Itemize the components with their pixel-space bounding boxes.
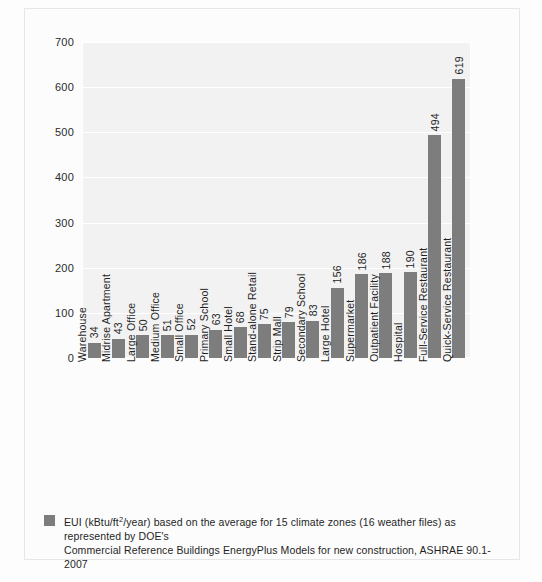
category-slot: Primary School bbox=[204, 362, 228, 494]
category-slot: Full-Service Restaurant bbox=[422, 362, 446, 494]
y-axis-tick-label: 0 bbox=[68, 352, 74, 364]
legend-label: EUI (kBtu/ft2/year) based on the average… bbox=[64, 512, 494, 571]
x-axis-category-label: Large Hotel bbox=[319, 306, 331, 362]
chart-figure: 34435051526368757983156186188190494619 7… bbox=[0, 0, 542, 582]
bar bbox=[331, 288, 344, 358]
category-slot: Small Office bbox=[179, 362, 203, 494]
category-slot: Strip Mall bbox=[277, 362, 301, 494]
x-axis-category-label: Secondary School bbox=[295, 274, 307, 362]
bar bbox=[209, 330, 222, 358]
category-slot: Supermarket bbox=[349, 362, 373, 494]
bar bbox=[136, 335, 149, 358]
y-axis-tick-labels: 7006005004003002001000 bbox=[22, 42, 74, 358]
y-axis-tick-label: 100 bbox=[55, 307, 74, 319]
bar-value-label: 75 bbox=[258, 308, 270, 320]
bar-value-label: 83 bbox=[307, 304, 319, 316]
y-axis-tick-label: 200 bbox=[55, 262, 74, 274]
y-axis-tick-label: 700 bbox=[55, 36, 74, 48]
bar bbox=[306, 321, 319, 358]
bar-value-label: 156 bbox=[331, 265, 343, 283]
bar-value-label: 188 bbox=[380, 251, 392, 269]
legend-line-1-suffix: /year) based on the average for 15 clima… bbox=[64, 516, 456, 542]
bar bbox=[161, 335, 174, 358]
category-slot: Outpatient Facility bbox=[374, 362, 398, 494]
legend-line-1: EUI (kBtu/ft2/year) based on the average… bbox=[64, 516, 456, 542]
bar-value-label: 43 bbox=[112, 322, 124, 334]
y-axis-tick-label: 500 bbox=[55, 126, 74, 138]
bar bbox=[258, 324, 271, 358]
x-axis-category-label: Stand-alone Retail bbox=[246, 272, 258, 362]
bar-series: 34435051526368757983156186188190494619 bbox=[82, 42, 471, 358]
bar-value-label: 186 bbox=[356, 252, 368, 270]
category-slot: Stand-alone Retail bbox=[252, 362, 276, 494]
bar bbox=[234, 327, 247, 358]
category-slot: Midrise Apartment bbox=[106, 362, 130, 494]
bar-value-label: 79 bbox=[283, 306, 295, 318]
category-slot: Medium Office bbox=[155, 362, 179, 494]
bar-value-label: 190 bbox=[404, 250, 416, 268]
x-axis-category-label: Midrise Apartment bbox=[100, 274, 112, 362]
bar bbox=[452, 79, 465, 358]
x-axis-category-label: Full-Service Restaurant bbox=[417, 248, 429, 362]
bar bbox=[282, 322, 295, 358]
bar bbox=[428, 135, 441, 358]
x-axis-category-label: Primary School bbox=[198, 288, 210, 362]
bar bbox=[379, 273, 392, 358]
category-slot: Large Hotel bbox=[325, 362, 349, 494]
x-axis-category-label: Strip Mall bbox=[271, 316, 283, 362]
y-axis-tick-label: 600 bbox=[55, 81, 74, 93]
bar-value-label: 51 bbox=[161, 319, 173, 331]
x-axis-category-label: Outpatient Facility bbox=[368, 274, 380, 362]
legend-color-swatch bbox=[44, 515, 55, 526]
bar-value-label: 619 bbox=[453, 56, 465, 74]
y-axis-tick-label: 300 bbox=[55, 217, 74, 229]
bar bbox=[355, 274, 368, 358]
plot-block: 34435051526368757983156186188190494619 7… bbox=[82, 42, 471, 358]
bar-value-label: 50 bbox=[137, 319, 149, 331]
x-axis-category-label: Small Office bbox=[173, 303, 185, 362]
y-axis-tick-label: 400 bbox=[55, 171, 74, 183]
category-slot: Quick-Service Restaurant bbox=[447, 362, 471, 494]
x-axis-category-label: Hospital bbox=[392, 322, 404, 362]
bar-value-label: 68 bbox=[234, 311, 246, 323]
category-slot: Hospital bbox=[398, 362, 422, 494]
bar bbox=[185, 335, 198, 358]
bar bbox=[112, 339, 125, 358]
x-axis-category-label: Warehouse bbox=[76, 307, 88, 362]
chart-legend: EUI (kBtu/ft2/year) based on the average… bbox=[44, 512, 494, 571]
bar-value-label: 34 bbox=[88, 326, 100, 338]
category-slot: Small Hotel bbox=[228, 362, 252, 494]
x-axis-category-label: Small Hotel bbox=[222, 306, 234, 362]
bar-value-label: 494 bbox=[429, 113, 441, 131]
x-axis-category-labels: WarehouseMidrise ApartmentLarge OfficeMe… bbox=[82, 362, 471, 494]
category-slot: Secondary School bbox=[301, 362, 325, 494]
legend-line-1-prefix: EUI (kBtu/ft bbox=[64, 516, 119, 528]
category-slot: Large Office bbox=[131, 362, 155, 494]
legend-line-2: Commercial Reference Buildings EnergyPlu… bbox=[64, 544, 491, 570]
x-axis-category-label: Quick-Service Restaurant bbox=[441, 238, 453, 362]
x-axis-category-label: Supermarket bbox=[344, 300, 356, 362]
bar bbox=[404, 272, 417, 358]
category-slot: Warehouse bbox=[82, 362, 106, 494]
bar-value-label: 63 bbox=[210, 313, 222, 325]
bar-value-label: 52 bbox=[185, 318, 197, 330]
x-axis-category-label: Medium Office bbox=[149, 292, 161, 362]
bar bbox=[88, 343, 101, 358]
x-axis-category-label: Large Office bbox=[125, 303, 137, 362]
